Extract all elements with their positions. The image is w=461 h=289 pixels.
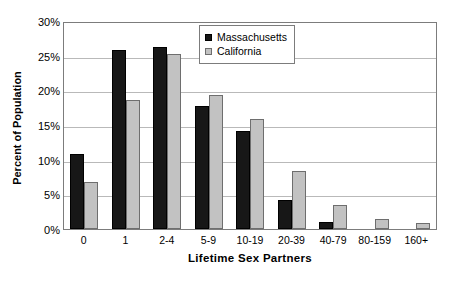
y-axis-tick-label: 10% — [26, 156, 60, 166]
chart-legend: MassachusettsCalifornia — [199, 25, 295, 64]
x-axis-tick-label: 20-39 — [271, 233, 313, 247]
bar-massachusetts — [70, 154, 84, 229]
light-square-swatch — [205, 48, 212, 55]
bar-california — [333, 205, 347, 229]
x-axis-tick-label: 2-4 — [146, 233, 188, 247]
x-axis-tick-label: 5-9 — [188, 233, 230, 247]
bar-group — [355, 23, 397, 229]
bar-california — [292, 171, 306, 229]
legend-item-label: Massachusetts — [217, 32, 287, 43]
y-axis-tick-label: 25% — [26, 52, 60, 62]
y-axis-tick-label: 30% — [26, 17, 60, 27]
x-axis-tick-label: 10-19 — [229, 233, 271, 247]
y-axis-tick-label: 0% — [26, 225, 60, 235]
y-axis-tick-label: 5% — [26, 190, 60, 200]
legend-item: California — [205, 45, 289, 58]
bar-california — [250, 119, 264, 229]
bar-california — [416, 223, 430, 229]
x-axis-tick-label: 40-79 — [312, 233, 354, 247]
dark-square-swatch — [205, 34, 212, 41]
bar-massachusetts — [153, 47, 167, 229]
bar-california — [126, 100, 140, 229]
y-axis-tick-label: 20% — [26, 86, 60, 96]
bar-group — [64, 23, 106, 229]
y-axis-tick-label: 15% — [26, 121, 60, 131]
bar-massachusetts — [112, 50, 126, 229]
bar-california — [167, 54, 181, 229]
x-axis-tick-labels: 012-45-910-1920-3940-7980-159160+ — [63, 233, 437, 249]
bar-california — [209, 95, 223, 230]
bar-california — [84, 182, 98, 229]
bar-massachusetts — [278, 200, 292, 229]
x-axis-tick-label: 160+ — [395, 233, 437, 247]
bar-group — [147, 23, 189, 229]
x-axis-tick-label: 80-159 — [354, 233, 396, 247]
bar-group — [106, 23, 148, 229]
bar-massachusetts — [236, 131, 250, 229]
x-axis-tick-label: 0 — [63, 233, 105, 247]
legend-item-label: California — [217, 46, 261, 57]
x-axis-tick-label: 1 — [105, 233, 147, 247]
x-axis-title: Lifetime Sex Partners — [63, 252, 437, 264]
legend-item: Massachusetts — [205, 31, 289, 44]
bar-group — [396, 23, 438, 229]
bar-california — [375, 219, 389, 229]
bar-group — [313, 23, 355, 229]
chart-figure: Percent of Population 0%5%10%15%20%25%30… — [0, 0, 461, 289]
bar-massachusetts — [195, 106, 209, 229]
y-axis-tick-labels: 0%5%10%15%20%25%30% — [24, 0, 60, 289]
bar-massachusetts — [319, 222, 333, 229]
